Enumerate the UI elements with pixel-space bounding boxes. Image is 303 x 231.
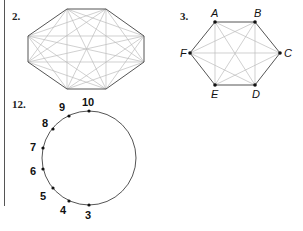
point-label-4: 4: [60, 204, 67, 216]
point-label-6: 6: [30, 165, 36, 177]
hexagon-figure: A B C D E F: [180, 7, 292, 100]
vertex-label-b: B: [254, 7, 261, 19]
octagon-figure: [28, 9, 144, 89]
figures: A B C D E F 10 9 8 7 6 5 4 3: [0, 0, 303, 231]
vertex-label-d: D: [252, 88, 260, 100]
circle-figure: 10 9 8 7 6 5 4 3: [30, 96, 136, 221]
point-label-9: 9: [59, 101, 65, 113]
vertex-label-f: F: [180, 47, 188, 59]
vertex-label-a: A: [210, 7, 218, 19]
point-label-5: 5: [40, 190, 46, 202]
point-label-8: 8: [42, 117, 48, 129]
vertex-label-e: E: [211, 88, 219, 100]
point-label-10: 10: [82, 96, 94, 108]
point-label-7: 7: [30, 141, 36, 153]
point-label-3: 3: [85, 209, 91, 221]
vertex-label-c: C: [284, 47, 292, 59]
